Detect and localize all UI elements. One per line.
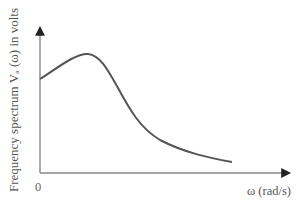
spectrum-curve — [40, 54, 232, 162]
origin-tick-label: 0 — [35, 180, 41, 195]
y-axis-label: Frequency spectrum Vₐ (ω) in volts — [6, 5, 22, 195]
x-axis-label: ω (rad/s) — [247, 184, 291, 199]
chart-canvas — [0, 0, 306, 208]
